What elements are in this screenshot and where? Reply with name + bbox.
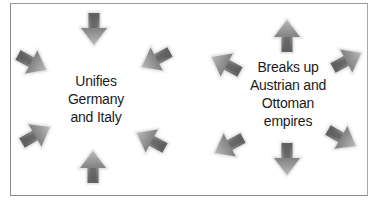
label-line: Austrian and <box>236 76 340 94</box>
arrow-up-right-icon <box>16 116 57 155</box>
breaks-up-label: Breaks up Austrian and Ottoman empires <box>236 58 340 130</box>
label-line: Ottoman <box>236 94 340 112</box>
arrow-up-left-icon <box>131 121 171 159</box>
arrow-up-icon <box>80 151 106 183</box>
label-line: Breaks up <box>236 58 340 76</box>
label-line: Unifies <box>60 72 132 90</box>
label-line: Germany <box>60 90 132 108</box>
unifies-label: Unifies Germany and Italy <box>60 72 132 126</box>
arrow-down-right-icon <box>12 44 52 82</box>
label-line: empires <box>236 112 340 130</box>
arrow-down-icon <box>274 143 300 175</box>
arrow-down-icon <box>81 13 107 45</box>
arrow-down-left-icon <box>136 41 176 79</box>
label-line: and Italy <box>60 108 132 126</box>
arrow-down-left-icon <box>209 127 249 165</box>
arrow-up-icon <box>274 20 300 52</box>
